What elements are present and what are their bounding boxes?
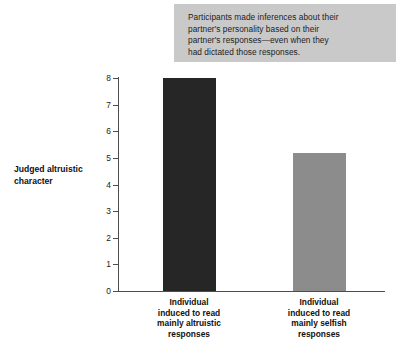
y-axis-tick bbox=[113, 158, 118, 159]
y-axis-tick bbox=[113, 131, 118, 132]
x-axis-category-line: mainly altruistic bbox=[123, 318, 255, 329]
x-axis-category-label: Individualinduced to readmainly altruist… bbox=[123, 297, 255, 339]
y-axis-tick bbox=[113, 78, 118, 79]
y-axis-tick-label: 4 bbox=[100, 181, 111, 189]
x-axis-category-line: induced to read bbox=[253, 308, 385, 319]
y-axis-tick-label: 6 bbox=[100, 127, 111, 135]
y-axis-tick-label: 2 bbox=[100, 234, 111, 242]
bar-altruistic bbox=[163, 78, 216, 291]
y-axis-tick bbox=[113, 105, 118, 106]
x-axis-category-line: Individual bbox=[123, 297, 255, 308]
x-axis-category-label: Individualinduced to readmainly selfishr… bbox=[253, 297, 385, 339]
y-axis-tick-label: 8 bbox=[100, 74, 111, 82]
x-axis-category-line: responses bbox=[253, 329, 385, 340]
y-axis-tick bbox=[113, 185, 118, 186]
y-axis-tick-label: 1 bbox=[100, 260, 111, 268]
x-axis-line bbox=[118, 291, 385, 292]
bar-chart: 012345678 Individualinduced to readmainl… bbox=[0, 0, 396, 351]
bar-selfish bbox=[293, 153, 346, 291]
y-axis-tick-label: 5 bbox=[100, 154, 111, 162]
y-axis-tick bbox=[113, 238, 118, 239]
y-axis-tick-label: 3 bbox=[100, 207, 111, 215]
x-axis-category-line: Individual bbox=[253, 297, 385, 308]
y-axis-tick-label: 0 bbox=[100, 287, 111, 295]
y-axis-tick bbox=[113, 291, 118, 292]
y-axis-tick bbox=[113, 211, 118, 212]
x-axis-category-line: responses bbox=[123, 329, 255, 340]
y-axis-line bbox=[118, 77, 119, 292]
x-axis-category-line: mainly selfish bbox=[253, 318, 385, 329]
y-axis-tick bbox=[113, 264, 118, 265]
x-axis-category-line: induced to read bbox=[123, 308, 255, 319]
y-axis-tick-label: 7 bbox=[100, 101, 111, 109]
